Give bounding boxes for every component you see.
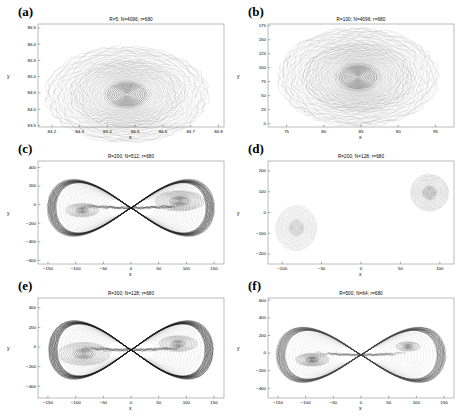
xtick-label: 150	[200, 400, 228, 405]
xtick-label: 100	[172, 266, 200, 271]
ytick-label: 85.5	[16, 58, 36, 63]
xtick-label: 85	[347, 129, 375, 134]
x-axis-label: x	[359, 271, 362, 277]
ytick-label: 400	[246, 315, 266, 320]
figure-canvas: (a)R=5; N=4096; r=68084.284.384.484.584.…	[0, 0, 461, 418]
panel-label-d: (d)	[248, 142, 264, 155]
xtick-label: 75	[273, 129, 301, 134]
ytick-label: 200	[16, 325, 36, 330]
x-axis-label: x	[129, 134, 132, 140]
ytick-label: 0	[246, 210, 266, 215]
ytick-label: −200	[16, 221, 36, 226]
panel-title-a: R=5; N=4096; r=680	[38, 17, 224, 22]
ytick-label: 100	[246, 189, 266, 194]
ytick-label: −400	[16, 239, 36, 244]
ytick-label: −400	[16, 384, 36, 389]
panel-label-c: (c)	[18, 142, 32, 155]
ytick-label: 50	[246, 93, 266, 98]
ytick-label: 200	[246, 168, 266, 173]
ytick-label: 86.0	[16, 42, 36, 47]
plot-area-e	[38, 298, 224, 398]
xtick-label: 50	[145, 400, 173, 405]
xtick-label: −100	[292, 400, 320, 405]
ytick-label: −400	[246, 386, 266, 391]
ytick-label: 84.0	[16, 107, 36, 112]
xtick-label: −150	[34, 266, 62, 271]
xtick-label: −50	[308, 266, 336, 271]
xtick-label: 84.2	[38, 129, 66, 134]
y-axis-label: y	[237, 345, 240, 351]
xtick-label: 84.8	[204, 129, 232, 134]
xtick-label: 50	[145, 266, 173, 271]
plot-area-d	[268, 161, 454, 264]
xtick-label: −100	[62, 266, 90, 271]
panel-label-b: (b)	[248, 5, 264, 18]
xtick-label: 100	[172, 400, 200, 405]
ytick-label: −200	[16, 364, 36, 369]
xtick-label: −150	[34, 400, 62, 405]
xtick-label: 150	[430, 400, 458, 405]
panel-label-f: (f)	[248, 279, 261, 292]
x-axis-label: x	[129, 405, 132, 411]
ytick-label: −200	[246, 251, 266, 256]
xtick-label: 80	[310, 129, 338, 134]
xtick-label: −50	[89, 266, 117, 271]
xtick-label: 84.3	[66, 129, 94, 134]
ytick-label: −200	[246, 368, 266, 373]
panel-title-b: R=100; N=4096; r=680	[268, 17, 454, 22]
ytick-label: 0	[246, 350, 266, 355]
xtick-label: −100	[268, 266, 296, 271]
panel-title-e: R=300; N=128; r=680	[38, 291, 224, 296]
xtick-label: 0	[117, 266, 145, 271]
xtick-label: −150	[264, 400, 292, 405]
x-axis-label: x	[359, 405, 362, 411]
ytick-label: 150	[246, 37, 266, 42]
panel-title-c: R=200; N=512; r=680	[38, 154, 224, 159]
ytick-label: 0	[16, 202, 36, 207]
y-axis-label: y	[237, 210, 240, 216]
y-axis-label: y	[237, 73, 240, 79]
ytick-label: 84.5	[16, 90, 36, 95]
x-axis-label: x	[129, 271, 132, 277]
ytick-label: 0	[246, 121, 266, 126]
xtick-label: 84.4	[93, 129, 121, 134]
xtick-label: 84.5	[121, 129, 149, 134]
ytick-label: 400	[16, 305, 36, 310]
ytick-label: −600	[16, 258, 36, 263]
panel-label-a: (a)	[18, 5, 33, 18]
panel-label-e: (e)	[18, 279, 32, 292]
ytick-label: 0	[16, 344, 36, 349]
xtick-label: 150	[200, 266, 228, 271]
ytick-label: 100	[246, 65, 266, 70]
ytick-label: 85.0	[16, 74, 36, 79]
ytick-label: −100	[246, 231, 266, 236]
ytick-label: 400	[16, 165, 36, 170]
xtick-label: 84.6	[149, 129, 177, 134]
panel-title-f: R=500; N=64; r=680	[268, 291, 454, 296]
xtick-label: 100	[426, 266, 454, 271]
xtick-label: −100	[62, 400, 90, 405]
ytick-label: 200	[16, 183, 36, 188]
xtick-label: 95	[421, 129, 449, 134]
ytick-label: 75	[246, 79, 266, 84]
ytick-label: 200	[246, 333, 266, 338]
ytick-label: 86.5	[16, 25, 36, 30]
xtick-label: 0	[347, 266, 375, 271]
plot-area-b	[268, 24, 454, 127]
panel-title-d: R=200; N=128; r=680	[268, 154, 454, 159]
xtick-label: 0	[347, 400, 375, 405]
x-axis-label: x	[359, 134, 362, 140]
xtick-label: 100	[402, 400, 430, 405]
y-axis-label: y	[7, 73, 10, 79]
xtick-label: 50	[386, 266, 414, 271]
xtick-label: 90	[384, 129, 412, 134]
plot-area-f	[268, 298, 454, 398]
xtick-label: 0	[117, 400, 145, 405]
xtick-label: −50	[89, 400, 117, 405]
ytick-label: 600	[246, 298, 266, 303]
y-axis-label: y	[7, 210, 10, 216]
xtick-label: 50	[375, 400, 403, 405]
ytick-label: 175	[246, 23, 266, 28]
y-axis-label: y	[7, 345, 10, 351]
xtick-label: 84.7	[177, 129, 205, 134]
